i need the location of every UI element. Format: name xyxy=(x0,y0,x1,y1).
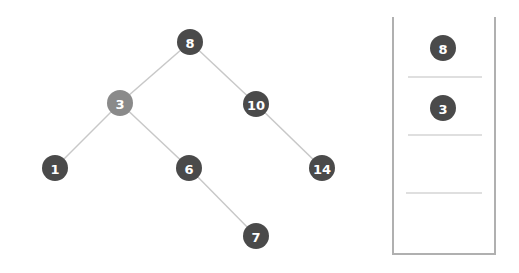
tree-node-3: 3 xyxy=(107,90,133,116)
node-label: 14 xyxy=(313,162,331,177)
tree-node-7: 7 xyxy=(243,223,269,249)
stack-item-3: 3 xyxy=(430,95,456,121)
edge-3-1 xyxy=(55,103,120,168)
stack-item-8: 8 xyxy=(430,35,456,61)
tree-node-6: 6 xyxy=(176,155,202,181)
tree-node-8: 8 xyxy=(177,29,203,55)
edge-3-6 xyxy=(120,103,189,168)
diagram-canvas: 8 3 10 1 6 14 7 xyxy=(0,0,519,273)
node-label: 7 xyxy=(251,230,260,245)
node-label: 8 xyxy=(185,36,194,51)
stack-item-label: 3 xyxy=(438,102,447,117)
stack-item-label: 8 xyxy=(438,42,447,57)
node-label: 1 xyxy=(50,162,59,177)
node-label: 6 xyxy=(184,162,193,177)
edge-10-14 xyxy=(256,104,322,168)
tree-node-10: 10 xyxy=(243,91,269,117)
tree-node-14: 14 xyxy=(309,155,335,181)
node-label: 3 xyxy=(115,97,124,112)
edge-6-7 xyxy=(189,168,256,236)
stack: 8 3 xyxy=(393,17,495,254)
tree-node-1: 1 xyxy=(42,155,68,181)
edge-8-3 xyxy=(120,42,190,103)
node-label: 10 xyxy=(247,98,265,113)
edge-8-10 xyxy=(190,42,256,104)
tree-edges xyxy=(55,42,322,236)
